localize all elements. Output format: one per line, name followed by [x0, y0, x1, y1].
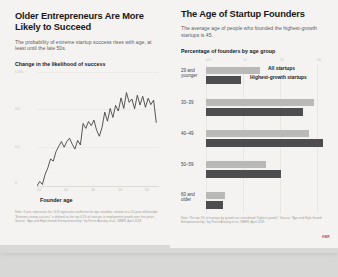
bar-all-startups: [206, 130, 309, 138]
line-chart: 0.3% 0.2 0.1 0: [15, 71, 159, 187]
bar-plot-area: All startups Highest-growth startups: [206, 65, 329, 216]
x-tick-row: 20 30 40 50 60: [15, 188, 159, 196]
y-tick-label: 0: [15, 181, 17, 185]
bar-highest-growth: [206, 76, 241, 84]
x-tick-label: 30: [317, 58, 321, 62]
x-tick-label: 50: [118, 188, 122, 192]
bar-highest-growth: [206, 201, 223, 209]
x-axis-line: [37, 186, 159, 187]
x-tick-label: 10: [243, 58, 247, 62]
x-tick-label: 0%: [206, 58, 211, 62]
x-tick-label: 60: [145, 188, 149, 192]
bar-all-startups: [206, 192, 225, 200]
category-label: 60 and older: [181, 192, 205, 203]
left-chart-kicker: Change in the likelihood of success: [15, 61, 160, 67]
category-label: 29 and younger: [181, 68, 205, 79]
bar-chart: 0% 10 20 30 29 and younger 30–39 40–49 5…: [181, 58, 329, 216]
hbr-logo: HBR: [322, 235, 330, 239]
x-tick-label: 40: [91, 188, 95, 192]
left-panel-title: Older Entrepreneurs Are More Likely to S…: [15, 11, 160, 34]
right-chart-panel: The Age of Startup Founders The average …: [170, 0, 338, 248]
left-chart-panel: Older Entrepreneurs Are More Likely to S…: [0, 0, 170, 245]
x-axis-title: Founder age: [40, 197, 160, 203]
left-panel-subtitle: The probability of extreme startup succe…: [15, 39, 160, 53]
bar-all-startups: [206, 99, 314, 107]
bar-highest-growth: [206, 139, 323, 147]
right-chart-kicker: Percentage of founders by age group: [181, 48, 330, 54]
legend-label-all-startups: All startups: [268, 66, 295, 71]
bar-highest-growth: [206, 108, 303, 116]
category-label: 50–59: [181, 162, 205, 167]
x-tick-label: 20: [37, 188, 41, 192]
right-panel-subtitle: The average age of people who founded th…: [181, 25, 330, 39]
legend-label-highest-growth: Highest-growth startups: [250, 75, 307, 80]
bar-highest-growth: [206, 170, 281, 178]
bar-all-startups: [206, 67, 260, 75]
y-tick-label: 0.3%: [15, 70, 23, 74]
category-label: 30–39: [181, 100, 205, 105]
infographic-sheet: Older Entrepreneurs Are More Likely to S…: [0, 0, 338, 253]
y-tick-label: 0.2: [15, 107, 20, 111]
y-tick-label: 0.1: [15, 145, 20, 149]
bar-all-startups: [206, 161, 266, 169]
line-series-path: [37, 71, 159, 186]
left-panel-footnote: Note: X axis represents the OLS regressi…: [15, 210, 160, 223]
right-panel-title: The Age of Startup Founders: [181, 9, 330, 20]
x-tick-label: 30: [64, 188, 68, 192]
right-panel-footnote: Note: The top 1% of startups by growth a…: [181, 216, 330, 225]
x-tick-label: 20: [280, 58, 284, 62]
category-label: 40–49: [181, 131, 205, 136]
